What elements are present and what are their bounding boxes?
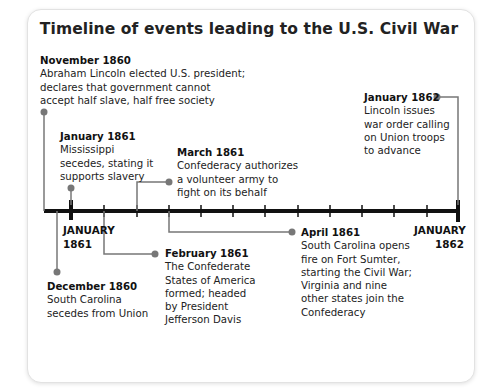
event-dec-1860: December 1860 South Carolina secedes fro… — [47, 280, 148, 320]
connector-mar-1861 — [137, 182, 169, 211]
event-apr-1861: April 1861 South Carolina opens fire on … — [301, 226, 412, 319]
event-jan-1861: January 1861 Mississippi secedes, statin… — [60, 130, 153, 183]
connector-apr-1861 — [169, 211, 292, 232]
dot-mar-1861 — [166, 179, 173, 186]
dot-jan-1861 — [68, 185, 75, 192]
event-mar-1861: March 1861 Confederacy authorizes a volu… — [177, 146, 298, 199]
dot-dec-1860 — [54, 269, 61, 276]
axis-label-jan-1861: JANUARY 1861 — [63, 224, 115, 251]
dot-apr-1861 — [289, 229, 296, 236]
axis-label-jan-1862: JANUARY 1862 — [414, 224, 464, 251]
event-nov-1860: November 1860 Abraham Lincoln elected U.… — [40, 54, 245, 107]
event-jan-1862: January 1862 Lincoln issues war order ca… — [364, 91, 450, 157]
event-feb-1861: February 1861 The Confederate States of … — [165, 247, 256, 327]
dot-nov-1860 — [41, 109, 48, 116]
dot-feb-1861 — [152, 251, 159, 258]
